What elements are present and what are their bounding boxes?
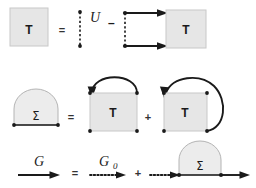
label-G: G xyxy=(34,154,44,169)
equals-sign-row1: = xyxy=(59,24,65,36)
dyson-sigma-term: Σ xyxy=(150,141,250,179)
label-G0-subscript: 0 xyxy=(113,161,118,171)
self-loop-arc xyxy=(92,77,137,93)
row-t-matrix: T = U – xyxy=(10,8,206,50)
self-energy-term-2: T xyxy=(160,78,223,133)
self-energy-label: Σ xyxy=(32,109,39,123)
row-dyson: G = G 0 + Σ xyxy=(18,141,250,179)
vertex-node xyxy=(135,91,139,95)
minus-sign-row1: – xyxy=(108,16,115,30)
t-matrix-rhs-label: T xyxy=(182,23,190,37)
t-box-label-1: T xyxy=(109,106,117,120)
sigma-label-row3: Σ xyxy=(196,159,203,173)
arrowhead-outgoing xyxy=(240,171,251,178)
plus-sign-row2: + xyxy=(145,111,151,123)
dyson-full-propagator: G xyxy=(18,154,60,179)
self-energy-blob: Σ xyxy=(12,89,60,127)
vertex-node xyxy=(205,129,209,133)
vertex-node xyxy=(162,129,166,133)
vertex-node xyxy=(88,129,92,133)
vertex-node xyxy=(12,123,16,127)
arrowhead-G xyxy=(50,171,61,178)
equals-sign-row2: = xyxy=(68,111,74,123)
label-G0: G xyxy=(99,154,109,169)
vertex-node xyxy=(78,10,82,14)
vertex-node xyxy=(135,129,139,133)
vertex-node xyxy=(56,123,60,127)
row-self-energy: Σ = T + xyxy=(12,77,223,133)
t-matrix-lhs-label: T xyxy=(25,23,33,37)
diagram-svg: T = U – xyxy=(0,0,256,188)
dyson-bare-propagator: G 0 xyxy=(90,154,126,179)
vertex-node xyxy=(88,91,92,95)
arrowhead-G0 xyxy=(116,172,126,179)
t-matrix-rhs-diagram: T xyxy=(123,9,206,50)
interaction-label-U: U xyxy=(90,10,101,25)
t-matrix-lhs-box: T xyxy=(10,8,48,46)
vertex-node xyxy=(78,44,82,48)
vertex-node xyxy=(162,91,166,95)
vertex-node xyxy=(205,91,209,95)
self-energy-term-1: T xyxy=(88,77,139,133)
figure-canvas: T = U – xyxy=(0,0,256,188)
equals-sign-row3: = xyxy=(72,167,78,179)
plus-sign-row3: + xyxy=(135,167,141,179)
t-box-label-2: T xyxy=(181,106,189,120)
vertex-node xyxy=(177,173,181,177)
interaction-line-U: U xyxy=(78,10,101,48)
